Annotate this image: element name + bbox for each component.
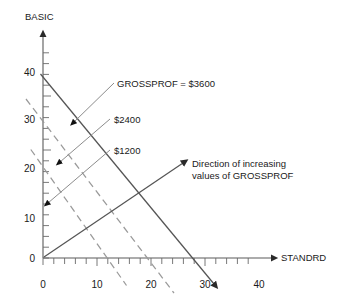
direction-annotation-line2: values of GROSSPROF — [192, 170, 294, 181]
y-tick-label-0: 0 — [29, 253, 35, 264]
series-label-1200: $1200 — [114, 145, 140, 156]
x-tick-label-20: 20 — [145, 279, 157, 290]
chart-canvas: BASIC STANDRD 40 30 20 10 0 0 10 20 30 4… — [0, 0, 338, 305]
x-tick-label-30: 30 — [199, 279, 211, 290]
direction-annotation-line1: Direction of increasing — [192, 158, 286, 169]
series-label-2400: $2400 — [114, 114, 140, 125]
y-tick-label-30: 30 — [24, 114, 36, 125]
y-tick-label-20: 20 — [24, 163, 36, 174]
y-ticks — [43, 53, 51, 258]
y-tick-label-10: 10 — [24, 213, 36, 224]
x-tick-label-0: 0 — [40, 279, 46, 290]
x-axis-title: STANDRD — [281, 252, 326, 263]
y-tick-label-40: 40 — [24, 67, 36, 78]
series-label-3600: GROSSPROF = $3600 — [117, 78, 215, 89]
leader-line-2400 — [60, 119, 110, 162]
x-tick-label-10: 10 — [91, 279, 103, 290]
series-line-3600 — [41, 74, 215, 284]
series-line-1200-main — [31, 150, 127, 286]
leader-line-1200 — [48, 150, 110, 203]
y-axis-title: BASIC — [25, 11, 54, 22]
direction-arrow-line — [44, 163, 183, 257]
x-tick-label-40: 40 — [253, 279, 265, 290]
x-ticks — [43, 258, 248, 266]
isoprofit-chart: BASIC STANDRD 40 30 20 10 0 0 10 20 30 4… — [0, 0, 338, 305]
leader-line-3600 — [74, 83, 114, 122]
